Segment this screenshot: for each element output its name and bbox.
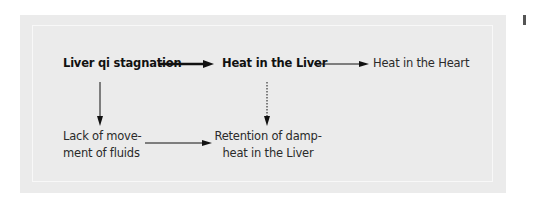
node-heat-in-the-heart: Heat in the Heart (373, 55, 469, 72)
node-lack-of-movement-line2: ment of fluids (63, 145, 140, 162)
arrows-layer (0, 0, 534, 199)
arrow-lack-fluids-to-retention (145, 140, 212, 146)
node-heat-in-the-liver: Heat in the Liver (222, 55, 327, 72)
node-liver-qi-stagnation: Liver qi stagnation (63, 55, 181, 72)
node-retention-line2: heat in the Liver (213, 145, 323, 162)
node-retention-line1: Retention of damp- (213, 128, 323, 145)
node-lack-of-movement-line1: Lack of move- (63, 128, 142, 145)
arrow-qi-to-lack-fluids (97, 82, 103, 126)
arrow-heat-liver-to-retention-dotted (264, 82, 270, 126)
